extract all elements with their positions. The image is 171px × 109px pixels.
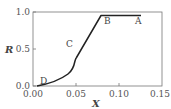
plot-frame (33, 12, 162, 86)
y-axis-label: R (4, 44, 13, 55)
y-tick-label: 1.0 (16, 7, 31, 17)
x-tick-label: 0.10 (109, 89, 129, 99)
x-axis: 0.00 0.05 0.10 0.15 X (23, 83, 170, 109)
chart: 1.0 0.5 0.0 R 0.00 0.05 0.10 0.15 X A B … (0, 0, 171, 109)
y-axis: 1.0 0.5 0.0 R (4, 7, 36, 91)
y-tick-label: 0.5 (16, 44, 31, 54)
x-axis-label: X (91, 98, 101, 109)
point-label-d: D (40, 76, 47, 86)
point-label-a: A (134, 16, 142, 26)
point-label-c: C (66, 39, 73, 49)
x-tick-label: 0.15 (150, 89, 170, 99)
x-tick-label: 0.00 (23, 89, 43, 99)
x-tick-label: 0.05 (66, 89, 86, 99)
point-label-b: B (104, 16, 111, 26)
data-line (37, 16, 141, 87)
